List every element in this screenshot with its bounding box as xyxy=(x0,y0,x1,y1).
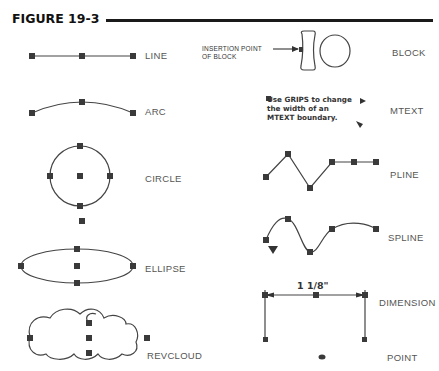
label-dimension: DIMENSION xyxy=(379,297,436,308)
grips xyxy=(18,47,379,360)
mtext-line3: MTEXT boundary. xyxy=(267,113,352,122)
mtext-line1: Use GRIPS to change xyxy=(267,95,352,104)
label-line: LINE xyxy=(145,50,167,61)
insertion-point-line2: OF BLOCK xyxy=(202,53,262,61)
insertion-arrow-icon xyxy=(292,46,299,52)
label-revcloud: REVCLOUD xyxy=(147,350,202,361)
mtext-sample: Use GRIPS to change the width of an MTEX… xyxy=(267,95,352,122)
label-spline: SPLINE xyxy=(388,232,424,243)
label-arc: ARC xyxy=(145,106,166,117)
label-mtext: MTEXT xyxy=(390,105,424,116)
label-point: POINT xyxy=(387,352,418,363)
block-object xyxy=(273,31,350,70)
mtext-grip-right-icon xyxy=(360,98,366,104)
label-block: BLOCK xyxy=(392,47,426,58)
insertion-point-annotation: INSERTION POINT OF BLOCK xyxy=(202,45,262,61)
insertion-point-line1: INSERTION POINT xyxy=(202,45,262,53)
spline-object xyxy=(266,218,376,252)
mtext-line2: the width of an xyxy=(267,104,352,113)
label-circle: CIRCLE xyxy=(145,173,182,184)
label-pline: PLINE xyxy=(390,169,419,180)
revcloud-object xyxy=(29,309,137,359)
spline-direction-icon xyxy=(268,246,278,254)
label-ellipse: ELLIPSE xyxy=(145,263,186,274)
mtext-grip-corner-icon xyxy=(356,121,363,128)
dimension-value: 1 1/8" xyxy=(297,280,329,291)
pline-object xyxy=(266,154,376,188)
